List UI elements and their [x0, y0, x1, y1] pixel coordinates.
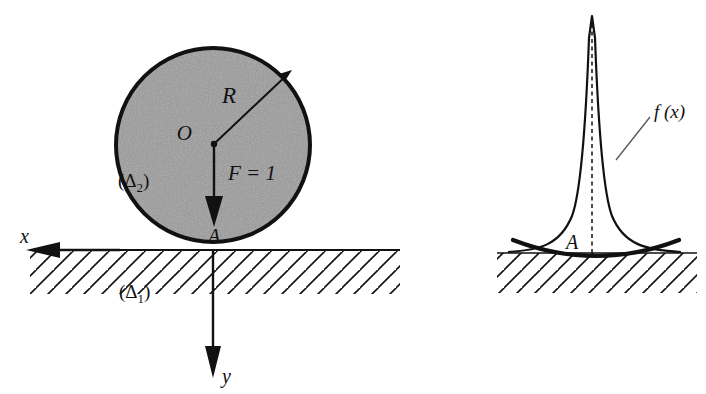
figure-canvas: R O F = 1 A (Δ2) (Δ1) x y f (x) A — [0, 0, 706, 394]
label-ground-delta1-main: (Δ — [119, 281, 138, 303]
label-force: F = 1 — [227, 161, 276, 185]
label-body-delta2-main: (Δ — [118, 170, 137, 192]
label-center-o: O — [177, 121, 192, 145]
label-radius: R — [221, 83, 236, 108]
label-contact-point-left: A — [206, 225, 221, 247]
label-axis-x: x — [19, 225, 29, 247]
leader-line-fx — [616, 117, 650, 160]
y-axis-arrowhead — [205, 346, 221, 378]
label-axis-y: y — [220, 365, 231, 388]
label-ground-delta1: (Δ1) — [119, 281, 150, 306]
left-panel-contact-geometry: R O F = 1 A (Δ2) (Δ1) x y — [19, 48, 400, 388]
pressure-curve-fx — [508, 16, 681, 252]
right-panel-pressure-distribution: f (x) A — [497, 16, 697, 293]
label-function-fx: f (x) — [654, 101, 685, 123]
ground-hatching-left — [30, 250, 400, 294]
ground-hatching-right — [497, 253, 697, 293]
label-contact-point-right: A — [564, 231, 579, 253]
